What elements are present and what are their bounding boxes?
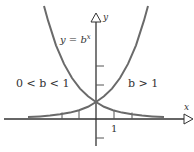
left-region-label: 0 < b < 1 (16, 77, 69, 90)
right-region-label: b > 1 (128, 77, 158, 90)
curve-b-greater-than-1 (28, 6, 148, 117)
x-axis-label: x (184, 102, 189, 112)
curve-b-between-0-and-1 (44, 6, 164, 117)
exponential-graph: y = bx 0 < b < 1 b > 1 x y 1 (0, 0, 194, 152)
curve-label: y = bx (59, 33, 91, 45)
y-axis-arrow-icon (91, 13, 101, 22)
x-axis-arrow-icon (184, 114, 193, 124)
x-tick-label-1: 1 (111, 123, 117, 134)
y-axis-label: y (102, 12, 109, 22)
